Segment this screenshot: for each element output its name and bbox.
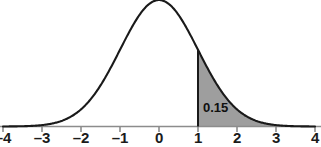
normal-curve-figure: –4–3–2–101234 0.15 bbox=[0, 0, 321, 147]
axis-tick-label: –2 bbox=[66, 130, 96, 146]
axis-tick-label: 1 bbox=[183, 130, 213, 146]
axis-tick-label: –1 bbox=[105, 130, 135, 146]
axis-tick-label: 0 bbox=[144, 130, 174, 146]
normal-curve bbox=[3, 0, 315, 126]
axis-tick-label: 2 bbox=[222, 130, 252, 146]
axis-tick-label: –4 bbox=[0, 130, 18, 146]
distribution-plot bbox=[0, 0, 321, 147]
shaded-area-group bbox=[198, 50, 315, 127]
shaded-tail-area bbox=[198, 50, 315, 127]
shaded-area-label: 0.15 bbox=[203, 101, 228, 115]
axis-tick-label: –3 bbox=[27, 130, 57, 146]
curve-group bbox=[3, 0, 315, 126]
axis-tick-label: 4 bbox=[300, 130, 321, 146]
axis-tick-label: 3 bbox=[261, 130, 291, 146]
